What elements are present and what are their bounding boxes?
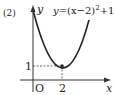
y-axis-label: y (37, 4, 43, 15)
equation-rhs: =(x−2) (59, 5, 96, 16)
equation-tail: +1 (100, 5, 115, 16)
problem-label: (2) (3, 9, 16, 18)
x-tick-2: 2 (59, 83, 66, 94)
vertex-point (60, 64, 64, 68)
parabola-curve (34, 12, 90, 68)
y-tick-1: 1 (25, 61, 32, 72)
origin-label: O (35, 83, 44, 94)
equation-label: y=(x−2)2+1 (53, 5, 114, 16)
y-axis-arrow-icon (31, 5, 36, 12)
x-axis-label: x (106, 83, 112, 94)
